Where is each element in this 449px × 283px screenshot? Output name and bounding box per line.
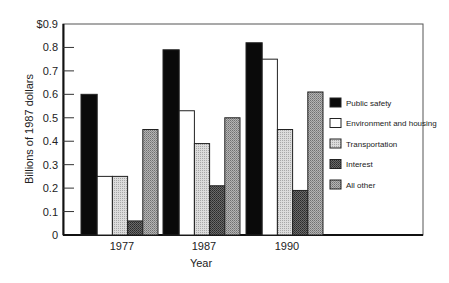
bar-group-1987 (163, 50, 240, 235)
legend-label: Interest (346, 160, 373, 169)
legend-item: Interest (330, 160, 373, 170)
legend-label: Transportation (346, 140, 397, 149)
bar-interest-1987 (210, 186, 225, 235)
legend-item: All other (330, 180, 376, 190)
bar-environment-and-housing-1990 (262, 59, 277, 235)
legend-swatch (330, 139, 341, 148)
bar-group-1977 (81, 94, 158, 235)
legend-item: Public safety (330, 98, 391, 108)
bar-transportation-1987 (194, 144, 209, 235)
bar-environment-and-housing-1987 (179, 111, 194, 235)
legend-swatch (330, 119, 341, 128)
y-tick-label: 0.6 (43, 88, 58, 100)
bar-chart: 00.10.20.30.40.50.60.70.8$0.9 1977198719… (0, 0, 449, 283)
bar-public-safety-1987 (163, 50, 179, 235)
y-tick-label: 0.2 (43, 182, 58, 194)
bar-interest-1977 (128, 221, 143, 235)
bar-public-safety-1977 (81, 94, 97, 235)
legend-label: Public safety (346, 99, 391, 108)
x-axis-title: Year (190, 257, 213, 269)
bar-groups (81, 43, 323, 235)
bar-interest-1990 (293, 190, 308, 235)
y-tick-label: 0.1 (43, 206, 58, 218)
legend-swatch (330, 160, 341, 169)
bar-transportation-1990 (277, 130, 292, 236)
y-tick-label: 0.3 (43, 159, 58, 171)
x-tick-label: 1990 (275, 240, 299, 252)
y-tick-label: $0.9 (37, 18, 58, 30)
y-tick-label: 0.4 (43, 135, 58, 147)
y-axis-title: Billions of 1987 dollars (23, 73, 35, 184)
legend-swatch (330, 98, 341, 107)
y-tick-label: 0.7 (43, 65, 58, 77)
bar-environment-and-housing-1977 (97, 176, 112, 235)
bar-group-1990 (246, 43, 323, 235)
x-axis-tick-labels: 197719871990 (110, 240, 299, 252)
legend-item: Environment and housing (330, 119, 437, 129)
x-tick-label: 1987 (192, 240, 216, 252)
bar-all-other-1990 (308, 92, 323, 235)
legend-swatch (330, 180, 341, 189)
y-tick-label: 0.5 (43, 112, 58, 124)
legend-item: Transportation (330, 139, 397, 149)
y-tick-label: 0.8 (43, 41, 58, 53)
legend-label: Environment and housing (346, 119, 437, 128)
bar-all-other-1987 (225, 118, 240, 235)
x-tick-label: 1977 (110, 240, 134, 252)
bar-transportation-1977 (112, 176, 127, 235)
y-axis-ticks: 00.10.20.30.40.50.60.70.8$0.9 (37, 18, 74, 241)
legend-label: All other (346, 181, 376, 190)
y-tick-label: 0 (52, 229, 58, 241)
legend: Public safetyEnvironment and housingTran… (330, 98, 437, 190)
bar-public-safety-1990 (246, 43, 262, 235)
bar-all-other-1977 (143, 130, 158, 236)
